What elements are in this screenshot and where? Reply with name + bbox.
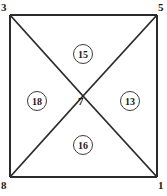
vertex-label-bottom-left: 8 (1, 180, 7, 191)
vertex-label-center: 7 (78, 96, 84, 107)
vertex-label-top-right: 5 (158, 2, 164, 13)
vertex-label-top-left: 3 (1, 2, 7, 13)
diagram-canvas: 3 5 8 1 7 15 18 13 16 (0, 0, 167, 196)
edge-topright-center (83, 15, 157, 96)
edge-topleft-center (10, 15, 83, 96)
face-label-right: 13 (120, 91, 140, 111)
face-label-top: 15 (73, 44, 93, 64)
edge-bottomleft-center (10, 96, 83, 177)
vertex-label-bottom-right: 1 (158, 180, 164, 191)
edge-bottomright-center (83, 96, 157, 177)
face-label-left: 18 (27, 91, 47, 111)
face-label-bottom: 16 (73, 135, 93, 155)
